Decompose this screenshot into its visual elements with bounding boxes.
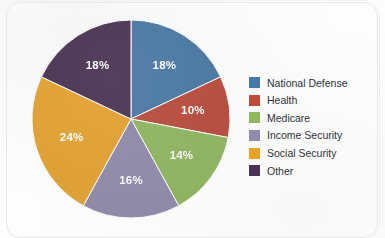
legend-item[interactable]: Medicare (249, 109, 377, 127)
legend-item-label: Other (267, 166, 293, 177)
legend-color-swatch (249, 77, 260, 88)
pie-slice-label: 18% (153, 59, 177, 71)
legend-item[interactable]: National Defense (249, 74, 377, 92)
chart-page: 18%10%14%16%24%18% National DefenseHealt… (0, 0, 385, 238)
legend-item-label: Social Security (267, 148, 336, 159)
chart-legend: National DefenseHealthMedicareIncome Sec… (249, 74, 377, 180)
legend-item-label: Medicare (267, 113, 310, 124)
legend-color-swatch (249, 148, 260, 159)
legend-item[interactable]: Other (249, 162, 377, 180)
legend-color-swatch (249, 112, 260, 123)
pie-chart: 18%10%14%16%24%18% (31, 19, 231, 219)
legend-item[interactable]: Income Security (249, 127, 377, 145)
pie-slice-label: 14% (170, 149, 194, 161)
legend-item[interactable]: Social Security (249, 144, 377, 162)
pie-slice-group (32, 20, 230, 218)
legend-item[interactable]: Health (249, 92, 377, 110)
pie-slice-label: 24% (60, 131, 84, 143)
legend-color-swatch (249, 130, 260, 141)
legend-color-swatch (249, 165, 260, 176)
legend-item-label: National Defense (267, 78, 348, 89)
legend-item-label: Health (267, 95, 297, 106)
pie-slice-label: 10% (181, 104, 205, 116)
legend-color-swatch (249, 95, 260, 106)
pie-chart-svg: 18%10%14%16%24%18% (31, 19, 231, 219)
legend-item-label: Income Security (267, 130, 342, 141)
pie-slice-label: 16% (119, 174, 143, 186)
pie-slice-label: 18% (86, 59, 110, 71)
